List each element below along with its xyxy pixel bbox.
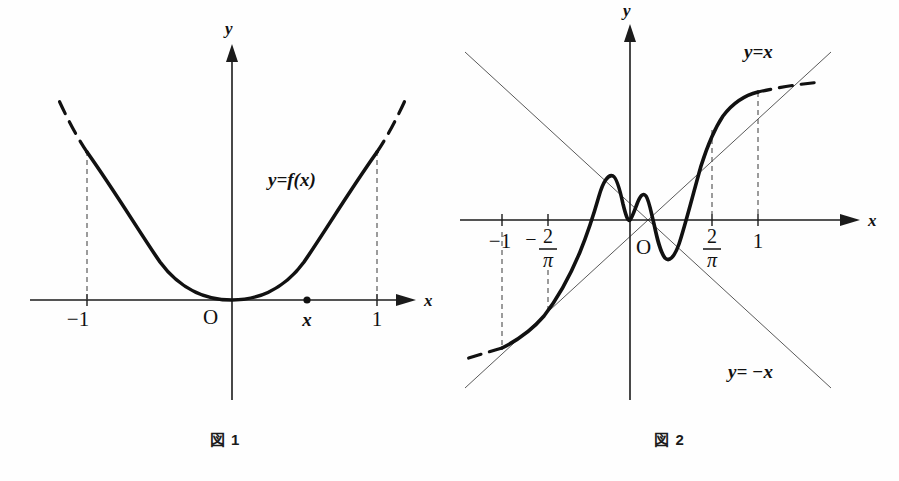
figure-1-x-axis-arrowhead <box>396 294 416 306</box>
figure-2: x y O y=x y= −x −1 − 2 π 2 π 1 図 2 <box>440 0 899 481</box>
figure-1-origin-label: O <box>203 305 218 329</box>
figure-1-point-label: x <box>301 309 312 330</box>
figure-1-curve-dashed-right <box>377 96 407 152</box>
figure-1-marked-point <box>303 296 310 303</box>
figure-2-x-axis-arrowhead <box>840 214 860 226</box>
figure-2-label-y-equals-minus-x: y= −x <box>726 361 774 382</box>
figure-2-tick-label-pos-two-over-pi: 2 π <box>703 225 721 271</box>
figure-1-tick-label-neg-one: −1 <box>67 307 89 331</box>
figure-2-tick-label-pos-one: 1 <box>753 229 764 253</box>
figure-2-plot: x y O y=x y= −x −1 − 2 π 2 π 1 <box>440 0 899 420</box>
figure-1-caption: 図 1 <box>0 428 450 449</box>
page-root: x y O −1 1 x y=f(x) 図 1 <box>0 0 899 481</box>
figure-1-y-axis-arrowhead <box>226 44 238 62</box>
figure-2-neg-two-over-pi-denominator: π <box>543 249 554 271</box>
figure-1-plot: x y O −1 1 x y=f(x) <box>0 0 450 420</box>
figure-2-label-y-equals-x: y=x <box>742 41 773 62</box>
figure-1-tick-label-pos-one: 1 <box>372 307 383 331</box>
figure-2-tick-label-neg-two-over-pi: − 2 π <box>525 225 557 271</box>
figure-2-neg-two-over-pi-sign: − <box>525 228 536 250</box>
figure-2-caption: 図 2 <box>440 428 899 449</box>
figure-1-curve-dashed-left <box>57 96 87 152</box>
figure-2-curve-dashed-right <box>758 82 822 92</box>
figure-1: x y O −1 1 x y=f(x) 図 1 <box>0 0 450 481</box>
figure-2-neg-two-over-pi-numerator: 2 <box>543 225 553 247</box>
figure-1-x-axis-label: x <box>423 291 433 310</box>
figure-2-pos-two-over-pi-denominator: π <box>707 249 718 271</box>
figure-1-curve-label: y=f(x) <box>266 169 316 191</box>
figure-1-y-axis-label: y <box>223 19 233 38</box>
figure-2-pos-two-over-pi-numerator: 2 <box>707 225 717 247</box>
figure-2-x-axis-label: x <box>867 211 877 230</box>
figure-2-origin-label: O <box>636 235 651 259</box>
figure-2-y-axis-label: y <box>621 1 631 20</box>
figure-2-curve-dashed-left <box>462 348 502 360</box>
figure-2-tick-label-neg-one: −1 <box>489 229 511 253</box>
figure-2-y-axis-arrowhead <box>624 24 636 42</box>
